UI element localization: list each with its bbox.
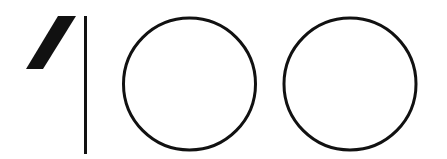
digit-one-stem: [84, 16, 87, 154]
digit-zero-second: [284, 18, 416, 150]
digit-one-flag: [26, 16, 76, 69]
logo-100: 100: [0, 0, 447, 159]
digit-one: [26, 16, 87, 154]
digit-zero-first: [124, 18, 256, 150]
logo-100-graphic: 100: [0, 0, 447, 159]
